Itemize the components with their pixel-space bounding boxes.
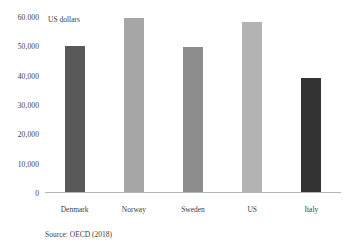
x-label-slot: US [223, 198, 282, 216]
bar-series [45, 17, 341, 193]
x-axis-label-denmark: Denmark [61, 205, 89, 214]
bar-slot [282, 17, 341, 193]
x-axis-label-us: US [247, 205, 257, 214]
bar-us [242, 22, 262, 193]
y-axis-tick-label: 60.000 [18, 13, 39, 22]
bar-denmark [65, 46, 85, 193]
x-label-slot: Italy [282, 198, 341, 216]
x-label-slot: Denmark [45, 198, 104, 216]
bar-slot [163, 17, 222, 193]
bar-slot [104, 17, 163, 193]
bar-slot [223, 17, 282, 193]
x-axis-label-italy: Italy [305, 205, 319, 214]
bar-norway [124, 18, 144, 193]
source-note: Source: OECD (2018) [45, 230, 112, 239]
x-axis-label-sweden: Sweden [181, 205, 205, 214]
x-axis-line [45, 192, 341, 193]
y-axis-tick-label: 20,000 [18, 130, 39, 139]
y-axis-tick-label: 40,000 [18, 71, 39, 80]
bar-chart-figure: US dollars 60.00050,00040,00030,00020,00… [0, 0, 355, 249]
bar-sweden [183, 47, 203, 193]
x-label-slot: Sweden [163, 198, 222, 216]
y-axis-tick-label: 30,000 [18, 101, 39, 110]
x-axis-category-labels: DenmarkNorwaySwedenUSItaly [45, 198, 341, 216]
bar-slot [45, 17, 104, 193]
bar-italy [301, 78, 321, 193]
plot-area: US dollars 60.00050,00040,00030,00020,00… [45, 17, 341, 193]
y-axis-tick-label: 10,000 [18, 159, 39, 168]
y-axis-tick-label: 0 [35, 189, 39, 198]
x-label-slot: Norway [104, 198, 163, 216]
y-axis-tick-label: 50,000 [18, 42, 39, 51]
x-axis-label-norway: Norway [122, 205, 146, 214]
